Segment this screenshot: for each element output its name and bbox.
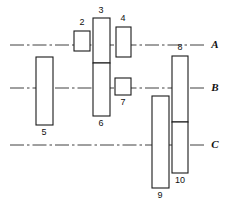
block-6 [93, 63, 110, 116]
block-5 [36, 57, 53, 125]
engineering-diagram: 2346578109 ABC [0, 0, 230, 217]
block-label-4: 4 [120, 13, 125, 23]
block-2 [74, 31, 90, 51]
axis-label-b: B [210, 81, 218, 93]
block-label-7: 7 [120, 97, 125, 107]
block-4 [116, 27, 131, 57]
block-label-6: 6 [98, 118, 103, 128]
block-8 [172, 56, 188, 122]
block-label-8: 8 [177, 42, 182, 52]
block-10 [172, 122, 188, 173]
block-7 [115, 78, 131, 95]
block-label-5: 5 [41, 127, 46, 137]
block-label-2: 2 [79, 17, 84, 27]
block-label-10: 10 [175, 175, 185, 185]
block-label-9: 9 [157, 190, 162, 200]
axis-label-c: C [211, 138, 219, 150]
block-9 [152, 96, 169, 188]
axis-labels-group: ABC [210, 38, 219, 150]
blocks-group [36, 18, 188, 188]
diagram-canvas: 2346578109 ABC [0, 0, 230, 217]
block-3 [93, 18, 110, 63]
axis-label-a: A [210, 38, 218, 50]
block-label-3: 3 [98, 5, 103, 15]
